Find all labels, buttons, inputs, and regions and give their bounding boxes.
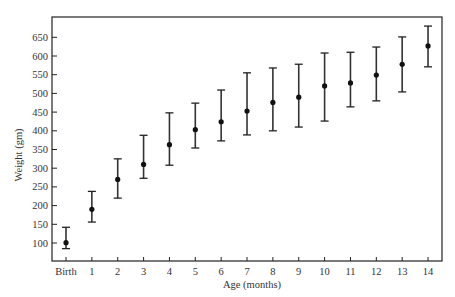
- data-point: [191, 103, 199, 148]
- mean-marker: [400, 62, 405, 67]
- mean-marker: [63, 240, 68, 245]
- data-point: [114, 159, 122, 198]
- data-point: [269, 68, 277, 131]
- x-tick-label: 14: [423, 266, 434, 277]
- mean-marker: [219, 119, 224, 124]
- mean-marker: [374, 72, 379, 77]
- mean-marker: [115, 177, 120, 182]
- x-axis: Birth1234567891011121314: [55, 257, 434, 277]
- data-point: [424, 26, 432, 67]
- data-point: [88, 191, 96, 222]
- y-tick-label: 450: [32, 107, 48, 118]
- mean-marker: [270, 100, 275, 105]
- x-tick-label: 8: [270, 266, 275, 277]
- y-tick-label: 150: [32, 219, 48, 230]
- x-tick-label: 2: [115, 266, 120, 277]
- y-tick-label: 100: [32, 238, 48, 249]
- plot-frame: [52, 17, 442, 261]
- mean-marker: [348, 80, 353, 85]
- y-tick-label: 500: [32, 88, 48, 99]
- data-point: [217, 90, 225, 141]
- x-tick-label: 10: [319, 266, 330, 277]
- x-tick-label: 9: [296, 266, 301, 277]
- mean-marker: [89, 207, 94, 212]
- y-tick-label: 300: [32, 163, 48, 174]
- data-point: [346, 52, 354, 107]
- data-point: [398, 37, 406, 92]
- x-tick-label: 6: [219, 266, 224, 277]
- x-tick-label: 3: [141, 266, 146, 277]
- y-axis-title: Weight (gm): [13, 128, 25, 182]
- y-tick-label: 350: [32, 144, 48, 155]
- y-tick-label: 600: [32, 51, 48, 62]
- data-point: [62, 227, 70, 248]
- data-point: [243, 73, 251, 135]
- x-tick-label: 1: [89, 266, 94, 277]
- y-tick-label: 250: [32, 181, 48, 192]
- y-tick-label: 550: [32, 69, 48, 80]
- mean-marker: [296, 95, 301, 100]
- data-point: [140, 135, 148, 178]
- y-axis: 100150200250300350400450500550600650: [32, 32, 57, 249]
- data-point: [372, 47, 380, 101]
- data-point: [295, 64, 303, 127]
- x-tick-label: 11: [345, 266, 355, 277]
- mean-marker: [167, 142, 172, 147]
- mean-marker: [322, 83, 327, 88]
- y-tick-label: 650: [32, 32, 48, 43]
- x-tick-label: 7: [244, 266, 249, 277]
- x-axis-title: Age (months): [223, 279, 282, 291]
- x-tick-label: 13: [397, 266, 408, 277]
- error-bars: [62, 26, 432, 249]
- mean-marker: [244, 108, 249, 113]
- data-point: [321, 53, 329, 121]
- x-tick-label: 4: [167, 266, 173, 277]
- x-tick-label: Birth: [55, 266, 77, 277]
- x-tick-label: 12: [371, 266, 382, 277]
- mean-marker: [141, 162, 146, 167]
- data-point: [165, 113, 173, 165]
- y-tick-label: 200: [32, 200, 48, 211]
- x-tick-label: 5: [193, 266, 198, 277]
- error-bar-chart: 100150200250300350400450500550600650 Bir…: [0, 0, 455, 297]
- y-tick-label: 400: [32, 125, 48, 136]
- mean-marker: [193, 127, 198, 132]
- mean-marker: [425, 43, 430, 48]
